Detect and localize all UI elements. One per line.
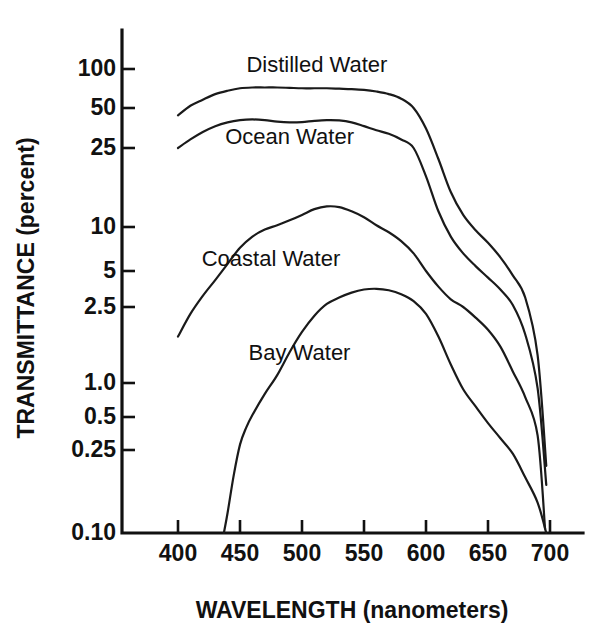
- y-axis-tick-label: 0.25: [71, 436, 116, 462]
- curve-bay-water: [224, 289, 546, 533]
- x-axis-tick-label: 500: [283, 540, 321, 566]
- y-axis-tick-label: 0.10: [71, 519, 116, 545]
- x-axis-tick-label: 600: [407, 540, 445, 566]
- y-axis-tick-label: 100: [78, 55, 116, 81]
- y-axis-tick-label: 10: [90, 213, 116, 239]
- chart-figure: 10050251052.51.00.50.250.10 400450500550…: [0, 0, 605, 634]
- y-axis-tick-label: 5: [103, 257, 116, 283]
- y-axis-tick-label: 50: [90, 94, 116, 120]
- series-label-bay-water: Bay Water: [249, 340, 351, 365]
- y-axis-tick-label: 0.5: [84, 403, 116, 429]
- y-axis-ticks: [122, 69, 135, 450]
- x-axis-tick-label: 400: [159, 540, 197, 566]
- x-axis-tick-labels: 400450500550600650700: [159, 540, 569, 566]
- series-inline-labels: Distilled WaterOcean WaterCoastal WaterB…: [202, 52, 388, 365]
- y-axis-tick-label: 2.5: [84, 293, 116, 319]
- transmittance-vs-wavelength-chart: 10050251052.51.00.50.250.10 400450500550…: [0, 0, 605, 634]
- x-axis-tick-label: 650: [469, 540, 507, 566]
- series-label-ocean-water: Ocean Water: [225, 124, 354, 149]
- series-label-coastal-water: Coastal Water: [202, 246, 341, 271]
- x-axis-tick-label: 450: [221, 540, 259, 566]
- y-axis-tick-labels: 10050251052.51.00.50.250.10: [71, 55, 116, 545]
- x-axis-ticks: [178, 520, 550, 533]
- data-curves: [178, 87, 546, 533]
- y-axis-tick-label: 1.0: [84, 369, 116, 395]
- series-label-distilled-water: Distilled Water: [246, 52, 387, 77]
- x-axis-tick-label: 700: [531, 540, 569, 566]
- x-axis-tick-label: 550: [345, 540, 383, 566]
- y-axis-tick-label: 25: [90, 134, 116, 160]
- y-axis-title: TRANSMITTANCE (percent): [13, 137, 39, 438]
- curve-ocean-water: [178, 119, 546, 484]
- x-axis-title: WAVELENGTH (nanometers): [196, 597, 509, 623]
